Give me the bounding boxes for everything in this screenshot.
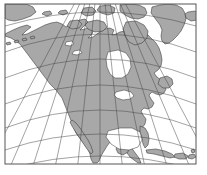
- map-canvas: [0, 0, 207, 175]
- map-figure: [0, 0, 207, 175]
